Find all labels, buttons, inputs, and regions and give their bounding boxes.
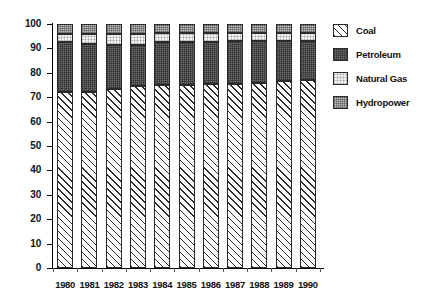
legend-item-natural-gas[interactable]: Natural Gas — [333, 70, 428, 90]
bar-segment-hydropower — [179, 24, 195, 33]
bar-1984 — [154, 24, 170, 268]
x-axis-tick-mark — [223, 268, 224, 272]
x-axis-tick-label: 1988 — [246, 280, 272, 290]
y-axis-tick-label: 40 — [15, 165, 41, 175]
y-axis-tick-label: 0 — [15, 263, 41, 273]
legend-item-label: Petroleum — [356, 48, 401, 61]
y-axis-tick-label: 50 — [15, 141, 41, 151]
legend-item-label: Hydropower — [356, 96, 409, 109]
bar-segment-hydropower — [276, 24, 292, 33]
bar-segment-hydropower — [203, 24, 219, 33]
x-axis-tick-mark — [53, 268, 54, 272]
y-axis-tick-label: 20 — [15, 214, 41, 224]
x-axis-tick-mark — [150, 268, 151, 272]
x-axis-tick-label: 1983 — [125, 280, 151, 290]
x-axis-tick-mark — [271, 268, 272, 272]
bar-1983 — [130, 24, 146, 268]
bar-segment-petroleum — [300, 41, 316, 80]
y-axis-tick-label: 70 — [15, 92, 41, 102]
bar-segment-coal — [179, 85, 195, 268]
bar-segment-hydropower — [227, 24, 243, 33]
y-axis-tick-mark — [47, 97, 52, 98]
x-axis-tick-label: 1987 — [222, 280, 248, 290]
bar-1981 — [81, 24, 97, 268]
bar-segment-natural-gas — [81, 34, 97, 44]
bar-segment-natural-gas — [251, 33, 267, 42]
bar-segment-petroleum — [130, 45, 146, 86]
bar-segment-petroleum — [227, 41, 243, 84]
bar-segment-petroleum — [276, 41, 292, 81]
bar-segment-hydropower — [251, 24, 267, 33]
legend-item-hydropower[interactable]: Hydropower — [333, 94, 428, 114]
bar-segment-coal — [276, 81, 292, 268]
bar-1990 — [300, 24, 316, 268]
bar-segment-coal — [57, 92, 73, 268]
y-axis-tick-mark — [47, 146, 52, 147]
plot-area — [53, 24, 320, 268]
y-axis-tick-label: 90 — [15, 43, 41, 53]
y-axis-tick-mark — [47, 244, 52, 245]
x-axis-tick-mark — [247, 268, 248, 272]
y-axis-tick-mark — [47, 24, 52, 25]
x-axis-tick-label: 1980 — [52, 280, 78, 290]
petroleum-swatch — [333, 48, 348, 61]
natural-gas-swatch — [333, 72, 348, 85]
bar-segment-natural-gas — [203, 33, 219, 43]
x-axis-tick-label: 1981 — [76, 280, 102, 290]
bar-segment-hydropower — [81, 24, 97, 34]
bar-segment-coal — [227, 84, 243, 268]
bar-segment-hydropower — [106, 24, 122, 34]
x-axis-tick-label: 1990 — [295, 280, 321, 290]
y-axis-tick-mark — [47, 170, 52, 171]
x-axis-tick-mark — [77, 268, 78, 272]
bar-1980 — [57, 24, 73, 268]
bar-segment-natural-gas — [57, 34, 73, 43]
y-axis-tick-mark — [47, 268, 52, 269]
bar-segment-petroleum — [154, 42, 170, 85]
x-axis-tick-mark — [102, 268, 103, 272]
bar-segment-natural-gas — [154, 33, 170, 43]
bar-segment-natural-gas — [106, 34, 122, 45]
bar-segment-natural-gas — [130, 34, 146, 45]
stacked-bar-chart: 0102030405060708090100 19801981198219831… — [0, 0, 431, 300]
bar-segment-hydropower — [300, 24, 316, 33]
legend-item-coal[interactable]: Coal — [333, 22, 428, 42]
legend-item-label: Natural Gas — [356, 72, 407, 85]
bar-segment-natural-gas — [227, 33, 243, 42]
bar-segment-coal — [81, 92, 97, 268]
bar-segment-petroleum — [57, 42, 73, 92]
legend-item-petroleum[interactable]: Petroleum — [333, 46, 428, 66]
y-axis-tick-mark — [47, 219, 52, 220]
bar-segment-petroleum — [106, 45, 122, 89]
bar-segment-coal — [154, 85, 170, 268]
y-axis-tick-mark — [47, 195, 52, 196]
bar-1986 — [203, 24, 219, 268]
x-axis-tick-mark — [199, 268, 200, 272]
y-axis-tick-label: 80 — [15, 68, 41, 78]
legend-item-label: Coal — [356, 24, 376, 37]
bar-segment-coal — [251, 83, 267, 268]
bar-segment-hydropower — [154, 24, 170, 33]
bar-1982 — [106, 24, 122, 268]
bar-segment-natural-gas — [276, 33, 292, 42]
x-axis-tick-mark — [320, 268, 321, 272]
coal-swatch — [333, 24, 348, 37]
bar-1987 — [227, 24, 243, 268]
bar-segment-natural-gas — [300, 33, 316, 42]
x-axis-tick-mark — [296, 268, 297, 272]
bar-segment-petroleum — [203, 42, 219, 83]
x-axis-tick-label: 1985 — [174, 280, 200, 290]
hydropower-swatch — [333, 96, 348, 109]
x-axis-tick-label: 1986 — [198, 280, 224, 290]
y-axis-tick-mark — [47, 122, 52, 123]
x-axis-line — [52, 268, 324, 269]
y-axis-tick-label: 10 — [15, 239, 41, 249]
bar-segment-petroleum — [251, 41, 267, 82]
bar-segment-coal — [203, 84, 219, 268]
x-axis-tick-mark — [126, 268, 127, 272]
chart-legend: CoalPetroleumNatural GasHydropower — [333, 22, 428, 118]
y-axis-tick-mark — [47, 73, 52, 74]
bar-segment-petroleum — [179, 42, 195, 85]
bar-1985 — [179, 24, 195, 268]
bar-segment-natural-gas — [179, 33, 195, 43]
